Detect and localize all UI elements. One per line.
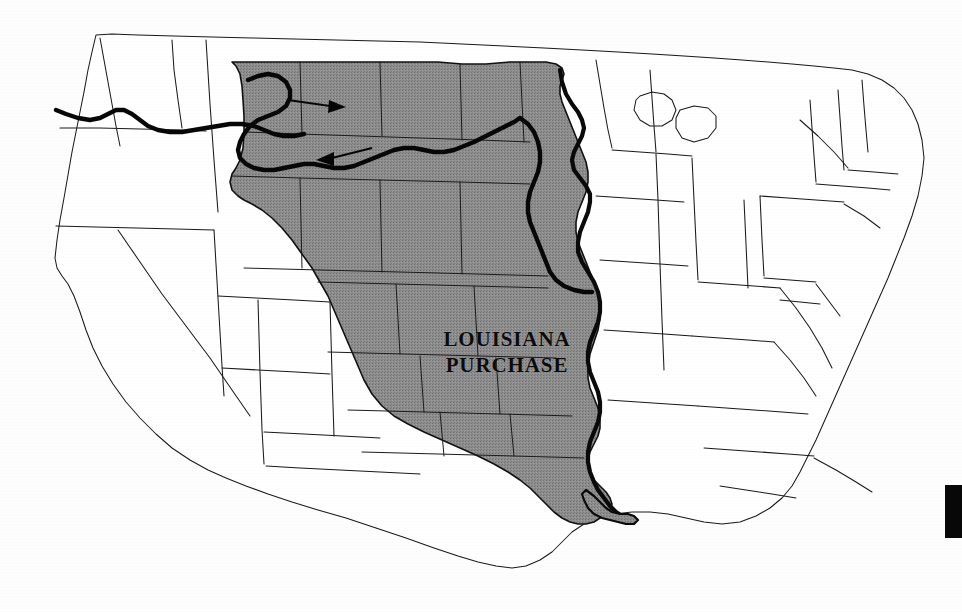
purchase-label: LOUISIANA PURCHASE	[432, 326, 582, 378]
purchase-label-line2: PURCHASE	[432, 352, 582, 378]
edge-marker	[945, 485, 962, 538]
louisiana-purchase-map: LOUISIANA PURCHASE	[0, 0, 962, 612]
map-canvas	[0, 0, 962, 612]
purchase-label-line1: LOUISIANA	[432, 326, 582, 352]
